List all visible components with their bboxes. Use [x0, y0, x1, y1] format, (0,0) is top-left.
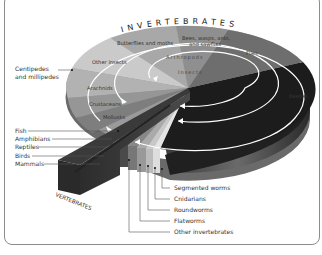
- label-centipedes-line1: Centipedes: [15, 65, 49, 73]
- label-reptiles: Reptiles: [15, 143, 39, 151]
- species-diversity-pie-diagram: INVERTEBRATES Butterflies and moths Bees…: [0, 0, 322, 255]
- label-fish: Fish: [15, 127, 27, 134]
- label-flies: Flies: [246, 50, 258, 56]
- label-vertebrates: VERTEBRATES: [55, 191, 93, 211]
- label-amphibians: Amphibians: [15, 135, 50, 143]
- label-centipedes-line2: and millipedes: [15, 73, 59, 81]
- label-mammals: Mammals: [15, 160, 44, 167]
- label-other-insects: Other insects: [92, 59, 127, 65]
- label-arachnids: Arachnids: [87, 85, 113, 91]
- label-birds: Birds: [15, 152, 30, 159]
- label-mollusks: Mollusks: [103, 114, 126, 120]
- label-cnidarians: Cnidarians: [174, 195, 206, 202]
- label-insects: Insects: [178, 69, 203, 75]
- label-other-invertebrates: Other invertebrates: [174, 228, 233, 235]
- label-butterflies: Butterflies and moths: [117, 40, 173, 46]
- label-bees-line2: and sawflies: [189, 41, 221, 47]
- label-flatworms: Flatworms: [174, 217, 205, 224]
- label-crustaceans: Crustaceans: [89, 101, 121, 107]
- label-segmented-worms: Segmented worms: [174, 184, 230, 192]
- label-roundworms: Roundworms: [174, 206, 213, 213]
- label-arthropods: Arthropods: [166, 54, 204, 61]
- label-beetles: Beetles: [289, 93, 309, 99]
